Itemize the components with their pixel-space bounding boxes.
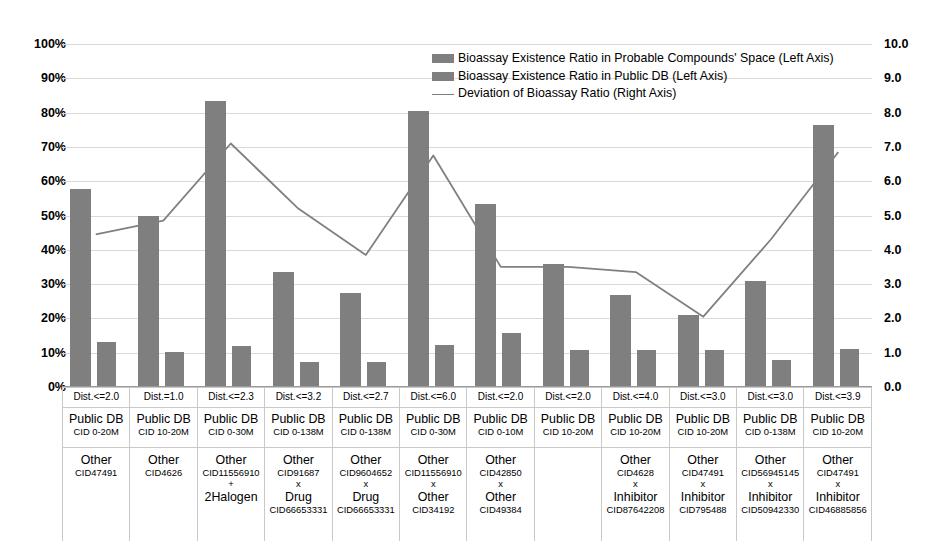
x-axis-distance-cell: Dist.<=6.0 (400, 388, 467, 408)
bar-public-db[interactable] (772, 360, 791, 387)
x-axis-distance-cell: Dist.<=3.0 (669, 388, 736, 408)
database-title: Public DB (536, 412, 600, 426)
left-axis-tick-label: 50% (6, 210, 66, 223)
database-title: Public DB (334, 412, 398, 426)
x-axis-distance-cell: Dist.<=3.9 (804, 388, 872, 408)
x-axis-label-table: Dist.<=2.0Dist.=1.0Dist.<=2.3Dist.<=3.2D… (62, 387, 872, 541)
bar-public-db[interactable] (232, 346, 251, 388)
x-axis-distance-cell: Dist.<=3.2 (265, 388, 332, 408)
x-axis-compound-cell: OtherCID4626 (130, 448, 197, 542)
bar-public-db[interactable] (435, 345, 454, 387)
bar-public-db[interactable] (705, 350, 724, 387)
database-cid-range: CID 0-138M (738, 426, 802, 437)
database-cid-range: CID 10-20M (131, 426, 195, 437)
compound-type-label: Other (603, 453, 667, 467)
x-axis-compound-cell (534, 448, 601, 542)
database-cid-range: CID 0-138M (334, 426, 398, 437)
legend-item: Bioassay Existence Ratio in Probable Com… (432, 50, 834, 68)
right-axis-tick-label: 9.0 (884, 72, 944, 85)
right-axis-tick-label: 5.0 (884, 210, 944, 223)
bar-probable-space[interactable] (273, 272, 294, 387)
left-axis-tick-label: 80% (6, 107, 66, 120)
x-axis-compound-cell: OtherCID11556910xOtherCID34192 (400, 448, 467, 542)
compound-type-label: Other (468, 453, 532, 467)
bar-probable-space[interactable] (340, 293, 361, 387)
second-compound-type-label: Inhibitor (738, 490, 802, 504)
legend-label: Bioassay Existence Ratio in Probable Com… (458, 50, 834, 68)
database-title: Public DB (401, 412, 465, 426)
x-axis-distance-cell: Dist.<=2.0 (534, 388, 601, 408)
second-compound-type-label: Other (401, 490, 465, 504)
x-axis-distance-cell: Dist.=1.0 (130, 388, 197, 408)
second-compound-type-label: 2Halogen (199, 490, 263, 504)
compound-type-label: Other (64, 453, 128, 467)
compound-operator: x (266, 478, 330, 490)
bar-public-db[interactable] (637, 350, 656, 387)
bar-probable-space[interactable] (610, 295, 631, 387)
x-axis-database-cell: Public DBCID 0-30M (400, 408, 467, 448)
bar-public-db[interactable] (367, 362, 386, 387)
database-title: Public DB (64, 412, 128, 426)
bar-probable-space[interactable] (543, 264, 564, 387)
x-axis-compound-cell: OtherCID11556910+2Halogen (197, 448, 264, 542)
bar-probable-space[interactable] (678, 315, 699, 387)
bar-group (197, 44, 265, 387)
compound-operator: x (468, 478, 532, 490)
bar-group (265, 44, 333, 387)
legend-label: Deviation of Bioassay Ratio (Right Axis) (458, 85, 676, 103)
left-axis-tick-label: 40% (6, 244, 66, 257)
legend-swatch-icon (432, 54, 454, 63)
bar-probable-space[interactable] (813, 125, 834, 387)
compound-operator: x (401, 478, 465, 490)
bar-probable-space[interactable] (70, 189, 91, 387)
x-axis-distance-cell: Dist.<=4.0 (602, 388, 669, 408)
compound-cid: CID4626 (131, 467, 195, 478)
bar-public-db[interactable] (165, 352, 184, 387)
compound-operator: x (334, 478, 398, 490)
database-cid-range: CID 0-138M (266, 426, 330, 437)
legend-swatch-icon (432, 72, 454, 81)
bar-public-db[interactable] (300, 362, 319, 387)
left-axis-tick-label: 90% (6, 72, 66, 85)
second-compound-cid: CID46885856 (805, 504, 870, 515)
right-axis-tick-label: 1.0 (884, 347, 944, 360)
right-axis-tick-label: 4.0 (884, 244, 944, 257)
second-compound-cid: CID66653331 (334, 504, 398, 515)
x-axis-compound-cell: OtherCID47491xInhibitorCID795488 (669, 448, 736, 542)
x-axis-distance-cell: Dist.<=2.0 (63, 388, 130, 408)
second-compound-cid: CID795488 (671, 504, 735, 515)
database-title: Public DB (603, 412, 667, 426)
bar-public-db[interactable] (97, 342, 116, 387)
x-axis-database-cell: Public DBCID 0-138M (737, 408, 804, 448)
second-compound-cid: CID34192 (401, 504, 465, 515)
database-title: Public DB (131, 412, 195, 426)
x-axis-database-cell: Public DBCID 0-138M (265, 408, 332, 448)
x-axis-database-cell: Public DBCID 0-10M (467, 408, 534, 448)
second-compound-cid: CID87642208 (603, 504, 667, 515)
bar-group (62, 44, 130, 387)
bar-public-db[interactable] (570, 350, 589, 387)
bar-probable-space[interactable] (408, 111, 429, 387)
left-axis-tick-label: 0% (6, 381, 66, 394)
database-title: Public DB (671, 412, 735, 426)
x-axis-distance-cell: Dist.<=3.0 (737, 388, 804, 408)
database-cid-range: CID 10-20M (805, 426, 870, 437)
x-axis-compound-row: OtherCID47491OtherCID4626OtherCID1155691… (63, 448, 872, 542)
second-compound-cid: CID49384 (468, 504, 532, 515)
second-compound-type-label: Inhibitor (603, 490, 667, 504)
database-cid-range: CID 10-20M (671, 426, 735, 437)
database-title: Public DB (738, 412, 802, 426)
bar-probable-space[interactable] (745, 281, 766, 387)
second-compound-type-label: Drug (334, 490, 398, 504)
bar-probable-space[interactable] (475, 204, 496, 387)
bar-probable-space[interactable] (138, 216, 159, 388)
compound-type-label: Other (401, 453, 465, 467)
compound-type-label: Other (671, 453, 735, 467)
x-axis-database-cell: Public DBCID 10-20M (534, 408, 601, 448)
bar-public-db[interactable] (840, 349, 859, 387)
bar-probable-space[interactable] (205, 101, 226, 387)
x-axis-database-cell: Public DBCID 0-138M (332, 408, 399, 448)
bar-public-db[interactable] (502, 333, 521, 387)
x-axis-compound-cell: OtherCID56945145xInhibitorCID50942330 (737, 448, 804, 542)
second-compound-cid: CID50942330 (738, 504, 802, 515)
